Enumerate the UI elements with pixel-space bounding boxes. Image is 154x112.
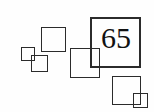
figure-canvas: 65 — [0, 0, 154, 112]
square-value-label: 65 — [101, 23, 131, 53]
square-tiny-lower-right — [133, 93, 148, 108]
square-small-left-lower — [31, 55, 48, 72]
square-medium-upper — [41, 27, 66, 52]
